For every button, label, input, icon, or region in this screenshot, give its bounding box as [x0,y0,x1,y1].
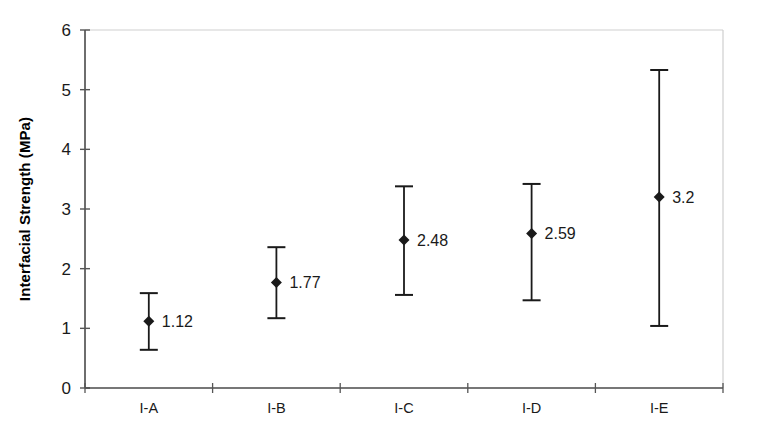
y-tick-label: 1 [62,319,71,338]
y-tick-label: 2 [62,260,71,279]
data-series-group [140,70,668,350]
error-bar-chart: 0123456 I-AI-BI-CI-DI-E Interfacial Stre… [0,0,760,444]
data-point-i-a [140,293,158,350]
data-point-i-c [395,186,413,295]
y-tick-label: 6 [62,21,71,40]
data-point-i-b [267,247,285,318]
data-value-label-i-a: 1.12 [162,313,193,330]
data-value-label-i-c: 2.48 [417,232,448,249]
x-category-label-i-d: I-D [522,400,541,416]
x-axis: I-AI-BI-CI-DI-E [85,383,723,416]
chart-figure: 0123456 I-AI-BI-CI-DI-E Interfacial Stre… [0,0,760,444]
y-tick-label: 5 [62,81,71,100]
y-tick-label-group: 0123456 [62,21,71,398]
x-category-label-i-e: I-E [650,400,669,416]
data-value-label-i-d: 2.59 [545,225,576,242]
y-tick-label: 3 [62,200,71,219]
data-label-group: 1.121.772.482.593.2 [162,189,695,330]
x-category-label-group: I-AI-BI-CI-DI-E [140,400,669,416]
diamond-marker [143,316,154,327]
diamond-marker [399,235,410,246]
y-axis-title: Interfacial Strength (MPa) [16,117,33,301]
y-tick-label: 0 [62,379,71,398]
data-value-label-i-b: 1.77 [289,274,320,291]
y-tick-label: 4 [62,140,71,159]
y-axis: 0123456 [62,21,90,398]
data-point-i-e [650,70,668,326]
diamond-marker [654,192,665,203]
x-category-label-i-a: I-A [140,400,159,416]
x-category-label-i-b: I-B [267,400,286,416]
x-category-label-i-c: I-C [394,400,413,416]
diamond-marker [271,277,282,288]
data-point-i-d [523,184,541,300]
data-value-label-i-e: 3.2 [672,189,694,206]
diamond-marker [526,228,537,239]
